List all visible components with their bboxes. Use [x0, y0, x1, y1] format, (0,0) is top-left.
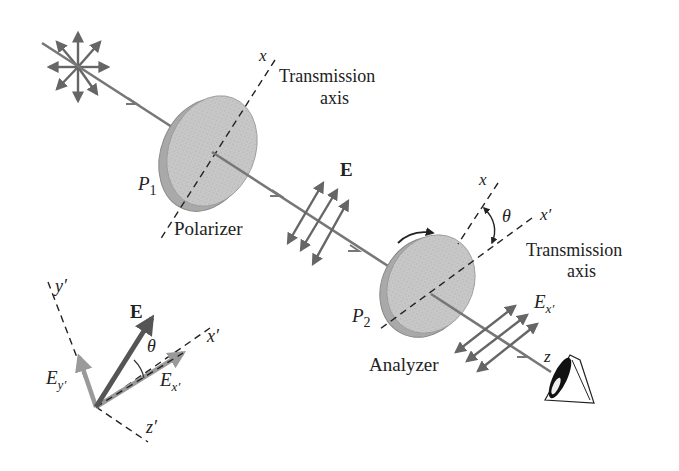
polarized-field-arrows — [288, 183, 348, 264]
analyzer-transmission-label-2: axis — [567, 261, 596, 281]
polarizer-disk — [142, 82, 273, 225]
inset-y-label: y′ — [53, 276, 68, 296]
analyzer-transmission-label-1: Transmission — [526, 240, 622, 260]
angle-arc-icon — [484, 208, 495, 243]
inset-E-label: E — [130, 301, 143, 322]
polarization-diagram: x Transmission axis P1 Polarizer E x x′ … — [0, 0, 679, 471]
analyzer-axis-x-label: x — [478, 170, 487, 189]
polarizer-transmission-label-1: Transmission — [279, 66, 375, 86]
component-inset — [48, 282, 210, 442]
eye-icon — [544, 355, 594, 403]
field-E-label: E — [340, 159, 353, 180]
analyzer-symbol: P2 — [351, 305, 371, 330]
polarizer-label: Polarizer — [174, 218, 243, 239]
polarized-ray — [212, 152, 388, 266]
inset-E-vector — [96, 318, 152, 407]
analyzer-theta-label: θ — [502, 206, 511, 226]
analyzer-disk — [363, 219, 492, 353]
polarizer-symbol: P1 — [137, 173, 157, 198]
polarizer-transmission-label-2: axis — [320, 88, 349, 108]
inset-z-axis — [96, 407, 148, 442]
inset-theta-label: θ — [147, 336, 156, 356]
inset-x-label: x′ — [206, 326, 220, 346]
inset-Ey-label: Ey′ — [45, 367, 66, 392]
z-axis-label: z — [543, 347, 551, 366]
inset-Ey-vector — [79, 357, 96, 407]
output-field-label: Ex′ — [533, 291, 554, 316]
inset-Ex-label: Ex′ — [159, 369, 180, 394]
inset-theta-arc — [134, 360, 144, 378]
analyzer-label: Analyzer — [369, 354, 439, 375]
transmitted-field-arrows — [456, 306, 537, 371]
analyzer-x-axis — [458, 183, 498, 244]
analyzer-axis-xprime-label: x′ — [539, 205, 552, 224]
inset-z-label: z′ — [145, 417, 158, 437]
polarizer-axis-x-label: x — [258, 46, 267, 65]
